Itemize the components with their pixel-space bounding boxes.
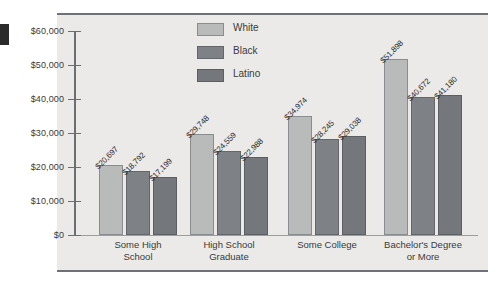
- y-tick-mark: [68, 201, 81, 202]
- category-label-line1: High School: [174, 239, 284, 251]
- legend-swatch-white-icon: [197, 23, 224, 36]
- y-axis-tick-label-wrap: $60,000: [0, 26, 64, 37]
- y-tick-mark: [68, 99, 81, 100]
- y-axis-tick-label: $20,000: [2, 162, 64, 172]
- bar-white: [288, 116, 312, 235]
- y-axis-tick-label: $40,000: [2, 94, 64, 104]
- bar-black: [126, 171, 150, 235]
- legend-label-black: Black: [233, 45, 257, 56]
- y-axis-tick-label-wrap: $0: [0, 230, 64, 241]
- y-tick-mark: [68, 167, 81, 168]
- bar-white: [190, 134, 214, 235]
- y-axis-tick-label: $60,000: [2, 26, 64, 36]
- y-axis-tick-label: $10,000: [2, 196, 64, 206]
- bar-latino: [153, 177, 177, 235]
- category-label-line2: Graduate: [174, 251, 284, 263]
- category-label-line2: or More: [368, 251, 478, 263]
- bar-latino: [342, 136, 366, 235]
- legend-label-latino: Latino: [233, 68, 260, 79]
- legend-swatch-latino-icon: [197, 69, 224, 82]
- bar-white: [384, 59, 408, 235]
- y-tick-mark: [68, 65, 81, 66]
- y-axis-tick-label-wrap: $30,000: [0, 128, 64, 139]
- x-axis-baseline: [74, 235, 478, 236]
- y-tick-mark: [68, 31, 81, 32]
- bar-black: [411, 97, 435, 235]
- category-label-line1: Bachelor's Degree: [368, 239, 478, 251]
- chart-figure: $60,000$50,000$40,000$30,000$20,000$10,0…: [0, 0, 493, 288]
- y-tick-mark: [68, 235, 81, 236]
- y-axis-tick-label: $0: [2, 230, 64, 240]
- y-axis-tick-label: $30,000: [2, 128, 64, 138]
- bar-black: [217, 151, 241, 235]
- legend-swatch-black-icon: [197, 46, 224, 59]
- category-label: Some College: [272, 239, 382, 251]
- bar-white: [99, 165, 123, 235]
- y-axis-tick-label-wrap: $10,000: [0, 196, 64, 207]
- y-axis-tick-label: $50,000: [2, 60, 64, 70]
- bar-latino: [244, 157, 268, 235]
- bar-latino: [438, 95, 462, 235]
- category-label: Bachelor's Degreeor More: [368, 239, 478, 263]
- category-label-line1: Some College: [272, 239, 382, 251]
- bottom-rule: [57, 270, 488, 272]
- y-axis-tick-label-wrap: $20,000: [0, 162, 64, 173]
- y-tick-mark: [68, 133, 81, 134]
- bar-black: [315, 139, 339, 235]
- y-axis-tick-label-wrap: $40,000: [0, 94, 64, 105]
- y-axis-tick-label-wrap: $50,000: [0, 60, 64, 71]
- category-label: High SchoolGraduate: [174, 239, 284, 263]
- legend-label-white: White: [233, 22, 259, 33]
